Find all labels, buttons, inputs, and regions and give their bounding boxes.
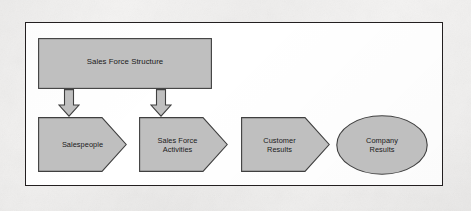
node-sales-force-structure[interactable]: Sales Force Structure [38,38,212,89]
down-arrow-icon-structure-to-salespeople [58,89,80,117]
node-company-results[interactable]: Company Results [336,115,428,175]
node-sales-force-activities[interactable]: Sales Force Activities [139,117,228,172]
diagram-frame: Sales Force Structure Salespeople Sales … [25,22,443,186]
ellipse-shape [336,115,428,175]
node-salespeople[interactable]: Salespeople [38,117,127,172]
rectangle-shape [38,38,212,89]
node-customer-results[interactable]: Customer Results [241,117,330,172]
chevron-shape [139,117,228,172]
down-arrow-icon-structure-to-activities [150,89,172,117]
chevron-shape [38,117,127,172]
chevron-shape [241,117,330,172]
